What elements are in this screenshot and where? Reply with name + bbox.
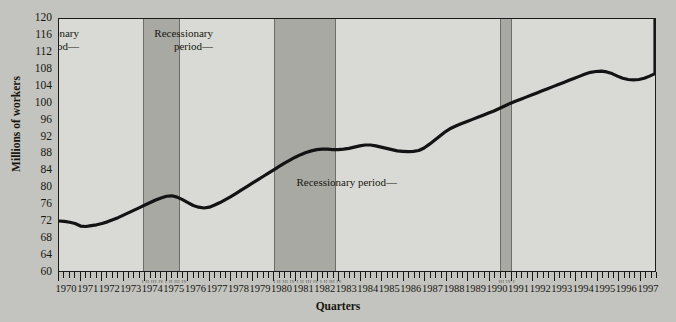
x-tick <box>651 272 652 278</box>
x-tick <box>581 272 582 278</box>
x-tick <box>236 272 237 278</box>
x-tick <box>106 272 107 278</box>
x-year-label: 1997 <box>633 283 663 294</box>
x-tick <box>139 272 140 278</box>
x-tick <box>123 272 124 281</box>
x-tick <box>63 272 64 278</box>
y-tick-label: 112 <box>10 46 52 58</box>
x-tick <box>419 272 420 278</box>
x-tick <box>80 272 81 281</box>
x-tick <box>203 272 204 278</box>
x-tick <box>516 272 517 278</box>
x-tick <box>306 272 307 278</box>
y-tick-label: 64 <box>10 249 52 261</box>
x-tick <box>160 272 161 278</box>
x-tick <box>365 272 366 278</box>
x-tick <box>640 272 641 281</box>
recession-annotation: Recessionary period— <box>73 27 213 52</box>
x-axis-title: Quarters <box>0 300 676 312</box>
x-tick <box>225 272 226 278</box>
x-tick <box>257 272 258 278</box>
x-tick <box>408 272 409 278</box>
x-tick <box>484 272 485 278</box>
x-tick <box>209 272 210 281</box>
y-tick-label: 84 <box>10 164 52 176</box>
y-tick-label: 116 <box>10 29 52 41</box>
x-tick <box>241 272 242 278</box>
x-tick <box>500 272 501 278</box>
x-tick <box>414 272 415 278</box>
x-tick <box>554 272 555 281</box>
x-tick <box>252 272 253 281</box>
plot-area: Recessionary period—Recessionary period—… <box>58 18 656 272</box>
x-tick <box>608 272 609 278</box>
x-tick <box>543 272 544 278</box>
x-tick <box>494 272 495 278</box>
x-tick <box>349 272 350 278</box>
x-tick <box>403 272 404 281</box>
x-tick <box>171 272 172 278</box>
x-tick <box>462 272 463 278</box>
x-tick <box>279 272 280 278</box>
x-tick <box>69 272 70 278</box>
x-tick <box>214 272 215 278</box>
x-tick <box>505 272 506 278</box>
y-tick-label: 60 <box>10 266 52 278</box>
x-tick <box>133 272 134 278</box>
recession-annotation: Recessionary period— <box>257 176 397 189</box>
x-axis-year-labels: 1970197119721973197419751976197719781979… <box>58 283 656 299</box>
y-tick-label: 108 <box>10 63 52 75</box>
x-tick <box>624 272 625 278</box>
x-tick <box>220 272 221 278</box>
x-tick <box>521 272 522 278</box>
x-tick <box>333 272 334 278</box>
x-tick <box>586 272 587 278</box>
x-tick <box>300 272 301 278</box>
y-tick-label: 100 <box>10 97 52 109</box>
y-tick-label: 68 <box>10 232 52 244</box>
x-tick <box>634 272 635 278</box>
x-tick <box>597 272 598 281</box>
y-tick-label: 88 <box>10 147 52 159</box>
x-tick <box>182 272 183 278</box>
x-tick <box>263 272 264 278</box>
x-tick <box>602 272 603 278</box>
x-tick <box>446 272 447 281</box>
y-tick-label: 80 <box>10 181 52 193</box>
x-tick <box>101 272 102 281</box>
x-tick <box>591 272 592 278</box>
x-tick <box>322 272 323 278</box>
x-tick <box>392 272 393 278</box>
x-tick <box>268 272 269 278</box>
y-tick-label: 92 <box>10 131 52 143</box>
x-tick <box>564 272 565 278</box>
x-tick <box>117 272 118 278</box>
x-tick <box>96 272 97 278</box>
chart-figure: Millions of workers 12011611210810410096… <box>0 0 676 322</box>
x-tick <box>527 272 528 278</box>
x-tick <box>457 272 458 278</box>
y-tick-label: 104 <box>10 80 52 92</box>
x-tick <box>559 272 560 278</box>
x-tick <box>370 272 371 278</box>
x-tick <box>629 272 630 278</box>
x-tick <box>187 272 188 281</box>
x-tick <box>311 272 312 278</box>
x-tick <box>467 272 468 281</box>
x-tick <box>645 272 646 278</box>
x-tick <box>435 272 436 278</box>
x-tick <box>354 272 355 278</box>
x-tick <box>290 272 291 278</box>
x-tick <box>451 272 452 278</box>
y-tick-label: 96 <box>10 114 52 126</box>
x-tick <box>548 272 549 278</box>
x-tick <box>441 272 442 278</box>
x-tick <box>575 272 576 281</box>
x-tick <box>198 272 199 278</box>
x-tick <box>150 272 151 278</box>
y-tick-label: 72 <box>10 215 52 227</box>
x-tick <box>537 272 538 278</box>
x-tick <box>618 272 619 281</box>
x-tick <box>128 272 129 278</box>
x-tick <box>489 272 490 281</box>
